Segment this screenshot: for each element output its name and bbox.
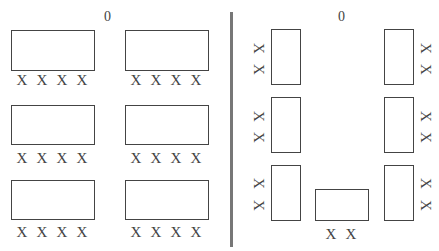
seat-mark: X — [55, 151, 69, 166]
seat-mark: X — [251, 177, 266, 191]
table — [271, 97, 301, 153]
seat-mark: X — [129, 225, 143, 240]
seat-mark: X — [75, 225, 89, 240]
seat-mark: X — [129, 73, 143, 88]
table — [315, 189, 369, 221]
seat-mark: X — [418, 63, 433, 77]
table — [384, 29, 414, 85]
teacher-marker: 0 — [338, 10, 345, 24]
seat-mark: X — [149, 151, 163, 166]
table — [11, 105, 95, 145]
seat-mark: X — [75, 73, 89, 88]
seat-mark: X — [129, 151, 143, 166]
seat-mark: X — [55, 225, 69, 240]
table — [11, 180, 95, 220]
seat-mark: X — [169, 151, 183, 166]
table — [271, 29, 301, 85]
table — [384, 97, 414, 153]
seat-mark: X — [35, 73, 49, 88]
seat-mark: X — [418, 199, 433, 213]
seat-mark: X — [251, 110, 266, 124]
seat-mark: X — [189, 73, 203, 88]
seat-mark: X — [15, 151, 29, 166]
table — [384, 165, 414, 221]
seat-mark: X — [35, 151, 49, 166]
cut-off-title — [130, 0, 310, 2]
seat-mark: X — [169, 225, 183, 240]
teacher-marker: 0 — [104, 10, 111, 24]
seat-mark: X — [75, 151, 89, 166]
seat-mark: X — [418, 177, 433, 191]
seat-mark: X — [169, 73, 183, 88]
seat-mark: X — [418, 110, 433, 124]
seat-mark: X — [344, 227, 358, 242]
seat-mark: X — [149, 73, 163, 88]
seat-mark: X — [55, 73, 69, 88]
seat-mark: X — [418, 131, 433, 145]
seat-mark: X — [189, 225, 203, 240]
seat-mark: X — [15, 225, 29, 240]
seat-mark: X — [251, 199, 266, 213]
seat-mark: X — [324, 227, 338, 242]
seat-mark: X — [189, 151, 203, 166]
seat-mark: X — [149, 225, 163, 240]
table — [125, 105, 209, 145]
table — [11, 30, 95, 71]
seat-mark: X — [15, 73, 29, 88]
seat-mark: X — [251, 42, 266, 56]
seat-mark: X — [251, 63, 266, 77]
layout-divider — [230, 12, 233, 247]
table — [271, 165, 301, 221]
seat-mark: X — [418, 42, 433, 56]
table — [125, 180, 209, 220]
seat-mark: X — [251, 131, 266, 145]
seat-mark: X — [35, 225, 49, 240]
table — [125, 30, 209, 71]
